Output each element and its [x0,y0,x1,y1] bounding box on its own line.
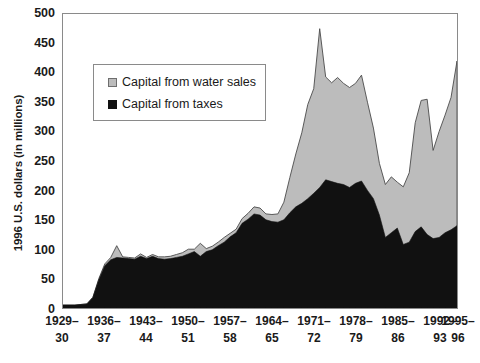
y-axis-tick-label: 450 [0,36,60,49]
y-axis-tick-label: 350 [0,96,60,109]
y-axis-tick-label: 300 [0,125,60,138]
y-axis-tick-label: 500 [0,7,60,20]
stacked-area-series [63,14,457,308]
plot-area [62,13,458,309]
legend-item-taxes: Capital from taxes [108,93,265,115]
legend-swatch-icon-water-sales [108,78,117,87]
chart-legend: Capital from water sales Capital from ta… [93,64,266,121]
legend-item-water-sales: Capital from water sales [108,71,265,93]
x-axis-tick-labels: 1929–301936–371943–441950–511957–581964–… [62,313,458,357]
y-axis-tick-label: 50 [0,273,60,286]
x-axis-tick-label: 1995–96 [430,313,480,347]
y-axis-tick-label: 400 [0,66,60,79]
legend-swatch-icon-taxes [108,100,117,109]
area-chart: 1996 U.S. dollars (in millions) 05010015… [0,0,480,363]
legend-label-water-sales: Capital from water sales [122,76,256,89]
y-axis-tick-label: 250 [0,155,60,168]
legend-label-taxes: Capital from taxes [122,98,223,111]
y-axis-tick-label: 150 [0,214,60,227]
y-axis-tick-labels: 050100150200250300350400450500 [0,0,60,363]
y-axis-tick-label: 100 [0,244,60,257]
y-axis-tick-label: 200 [0,184,60,197]
